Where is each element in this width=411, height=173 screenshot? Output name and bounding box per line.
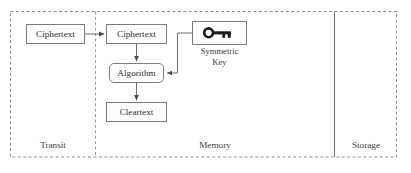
node-cleartext-label: Cleartext bbox=[120, 107, 154, 117]
diagram-canvas: Ciphertext Ciphertext Algorithm Cleartex… bbox=[0, 0, 411, 173]
crypto-flow-diagram: Ciphertext Ciphertext Algorithm Cleartex… bbox=[0, 0, 411, 173]
zone-label-transit: Transit bbox=[40, 140, 66, 150]
node-ciphertext-transit: Ciphertext bbox=[27, 25, 85, 44]
node-symmetric-key bbox=[193, 22, 247, 45]
connector-key-to-algorithm bbox=[167, 33, 192, 73]
node-ciphertext-memory: Ciphertext bbox=[107, 25, 167, 44]
node-algorithm: Algorithm bbox=[110, 64, 164, 83]
node-cleartext: Cleartext bbox=[107, 103, 167, 122]
zone-label-storage: Storage bbox=[352, 140, 380, 150]
symmetric-key-caption-line2: Key bbox=[212, 57, 227, 67]
node-ciphertext-memory-label: Ciphertext bbox=[117, 29, 156, 39]
node-ciphertext-transit-label: Ciphertext bbox=[36, 29, 75, 39]
symmetric-key-caption-line1: Symmetric bbox=[201, 46, 239, 56]
node-algorithm-label: Algorithm bbox=[117, 68, 155, 78]
zone-label-memory: Memory bbox=[199, 140, 231, 150]
